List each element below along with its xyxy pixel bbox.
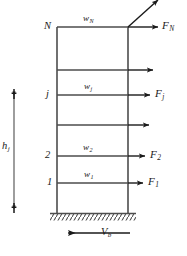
level-label-1: 1: [47, 177, 52, 188]
height-label-hj-sub: j: [8, 145, 10, 153]
force-label-2: F2: [150, 149, 160, 160]
foundation-hatching: [50, 214, 136, 221]
base-shear-label-base: V: [101, 226, 107, 237]
level-label-j: j: [46, 89, 49, 100]
force-label-N: FN: [162, 20, 174, 31]
force-label-2-base: F: [150, 148, 157, 160]
level-label-N: N: [44, 21, 51, 32]
force-label-N-base: F: [162, 19, 169, 31]
weight-label-N: wN: [83, 14, 93, 23]
figure-canvas: N j 2 1 wN wj w2 w1 FN Fj F2 F1 hj Vb: [0, 0, 187, 256]
force-label-2-sub: 2: [157, 153, 161, 162]
force-label-j-base: F: [155, 87, 162, 99]
base-shear-label: Vb: [101, 227, 111, 238]
foundation: [50, 214, 136, 221]
force-label-j-sub: j: [162, 92, 164, 101]
level-label-2: 2: [45, 150, 50, 161]
weight-label-j-sub: j: [90, 86, 92, 92]
force-label-j: Fj: [155, 88, 164, 99]
height-label-hj-base: h: [2, 140, 7, 151]
force-label-1: F1: [148, 176, 158, 187]
weight-label-N-sub: N: [89, 18, 93, 24]
weight-label-1: w1: [84, 170, 93, 179]
force-label-1-sub: 1: [155, 180, 159, 189]
height-label-hj: hj: [2, 141, 9, 152]
weight-label-j: wj: [84, 82, 92, 91]
base-shear-label-sub: b: [108, 231, 112, 239]
frame-columns: [57, 27, 128, 213]
force-label-1-base: F: [148, 175, 155, 187]
force-label-N-sub: N: [169, 24, 174, 33]
frame-diagram-svg: [0, 0, 187, 256]
floor-beams: [57, 27, 128, 183]
weight-label-2: w2: [83, 143, 92, 152]
force-arrow-N: [128, 0, 158, 27]
